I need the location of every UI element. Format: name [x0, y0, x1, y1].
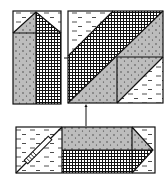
vertical-rectangle-unit [13, 11, 61, 104]
diagonal-square-unit [68, 11, 163, 103]
hatch-strip [36, 33, 61, 104]
horizontal-strip-unit [16, 127, 155, 173]
dotted-strip [62, 127, 132, 150]
dotted-strip [13, 33, 36, 104]
arrow-up [85, 104, 88, 126]
quilt-diagram [0, 0, 167, 184]
